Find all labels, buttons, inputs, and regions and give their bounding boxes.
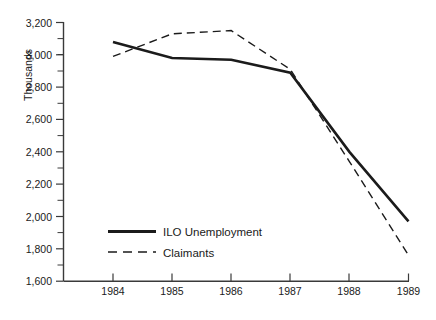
y-tick-label: 2,800 [26, 81, 52, 93]
x-tick-label: 1988 [337, 285, 361, 297]
y-tick-label: 1,600 [26, 275, 52, 287]
line-chart: Thousands 3,200 3,000 2,800 [0, 0, 436, 320]
x-tick-label: 1986 [219, 285, 243, 297]
series-ilo-unemployment-line [113, 42, 409, 221]
y-axis: 3,200 3,000 2,800 2,600 2,400 2,200 2,00… [26, 17, 64, 288]
x-axis: 1984 1985 1986 1987 1988 1989 [64, 274, 421, 298]
y-tick-label: 2,400 [26, 146, 52, 158]
y-tick-label: 2,200 [26, 178, 52, 190]
chart-legend: ILO Unemployment Claimants [108, 226, 263, 259]
chart-page: Thousands 3,200 3,000 2,800 [0, 0, 436, 320]
legend-label-claimants: Claimants [163, 247, 214, 259]
x-tick-label: 1989 [397, 285, 421, 297]
y-tick-label: 3,000 [26, 49, 52, 61]
x-tick-label: 1984 [101, 285, 125, 297]
y-tick-label: 1,800 [26, 243, 52, 255]
x-tick-label: 1987 [278, 285, 302, 297]
x-tick-label: 1985 [160, 285, 184, 297]
y-tick-label: 2,600 [26, 113, 52, 125]
y-tick-label: 3,200 [26, 17, 52, 29]
legend-label-ilo: ILO Unemployment [163, 226, 263, 238]
plot-series [113, 31, 409, 256]
series-claimants-line [113, 31, 409, 256]
y-tick-label: 2,000 [26, 211, 52, 223]
